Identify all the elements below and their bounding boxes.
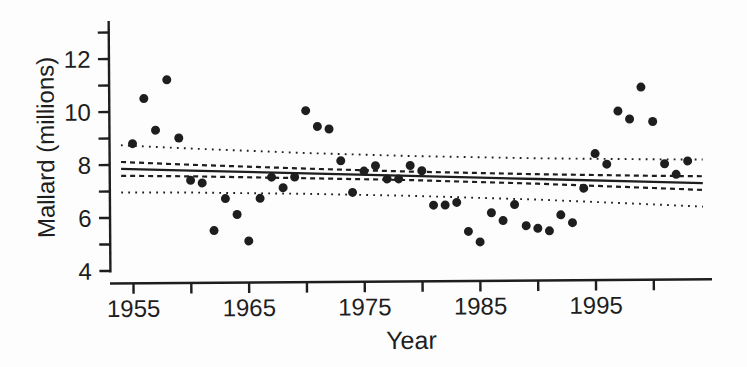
data-point (522, 221, 531, 230)
data-point (625, 114, 634, 123)
y-axis-tick-label: 8 (78, 152, 92, 179)
data-point (510, 200, 519, 209)
data-point (394, 174, 403, 183)
data-point (660, 159, 669, 168)
data-point (139, 94, 148, 103)
data-point (672, 170, 681, 179)
data-point (383, 174, 392, 183)
plot-area: 468101219551965197519851995YearMallard (… (31, 17, 712, 357)
data-points (128, 72, 693, 249)
x-axis-tick-label: 1965 (223, 294, 277, 321)
y-axis-tick-label: 6 (78, 205, 92, 232)
data-point (545, 226, 554, 235)
prediction-band-lower (121, 188, 703, 210)
x-axis-tick-label: 1985 (454, 292, 508, 319)
data-point (244, 236, 253, 245)
data-point (613, 107, 622, 116)
x-axis: 19551965197519851995 (107, 279, 712, 322)
data-point (487, 208, 496, 217)
data-point (591, 149, 600, 158)
y-axis-tick-label: 12 (64, 46, 91, 73)
data-point (579, 184, 588, 193)
data-point (209, 226, 218, 235)
data-point (464, 227, 473, 236)
data-point (429, 201, 438, 210)
scatter-plot: 468101219551965197519851995YearMallard (… (0, 0, 747, 367)
y-axis: 4681012 (63, 21, 110, 285)
data-point (267, 173, 276, 182)
data-point (533, 224, 542, 233)
data-point (301, 106, 310, 115)
data-point (279, 183, 288, 192)
data-point (406, 161, 415, 170)
data-point (452, 198, 461, 207)
data-point (371, 161, 380, 170)
x-axis-tick-label: 1995 (569, 291, 623, 318)
prediction-band-upper (121, 141, 703, 163)
y-axis-tick-label: 4 (78, 258, 92, 285)
data-point (648, 117, 657, 126)
x-axis-tick-label: 1955 (107, 295, 161, 322)
data-point (348, 188, 357, 197)
data-point (233, 210, 242, 219)
x-axis-title: Year (386, 326, 437, 354)
x-axis-tick-label: 1975 (338, 293, 392, 320)
data-point (313, 122, 322, 131)
data-point (336, 156, 345, 165)
data-point (128, 139, 137, 148)
mallard-trend-figure: 468101219551965197519851995YearMallard (… (0, 0, 747, 367)
data-point (602, 160, 611, 169)
data-point (256, 194, 265, 203)
data-point (556, 210, 565, 219)
fit-bands (121, 141, 703, 210)
data-point (568, 218, 577, 227)
data-point (198, 178, 207, 187)
y-axis-title: Mallard (millions) (31, 57, 59, 239)
data-point (359, 167, 368, 176)
data-point (417, 166, 426, 175)
data-point (683, 156, 692, 165)
data-point (499, 216, 508, 225)
y-axis-tick-label: 10 (64, 99, 91, 126)
data-point (476, 237, 485, 246)
data-point (186, 176, 195, 185)
data-point (441, 201, 450, 210)
data-point (290, 172, 299, 181)
data-point (162, 75, 171, 84)
data-point (151, 126, 160, 135)
data-point (221, 194, 230, 203)
x-axis-line (110, 279, 712, 283)
data-point (324, 124, 333, 133)
data-point (636, 83, 645, 92)
data-point (174, 133, 183, 142)
